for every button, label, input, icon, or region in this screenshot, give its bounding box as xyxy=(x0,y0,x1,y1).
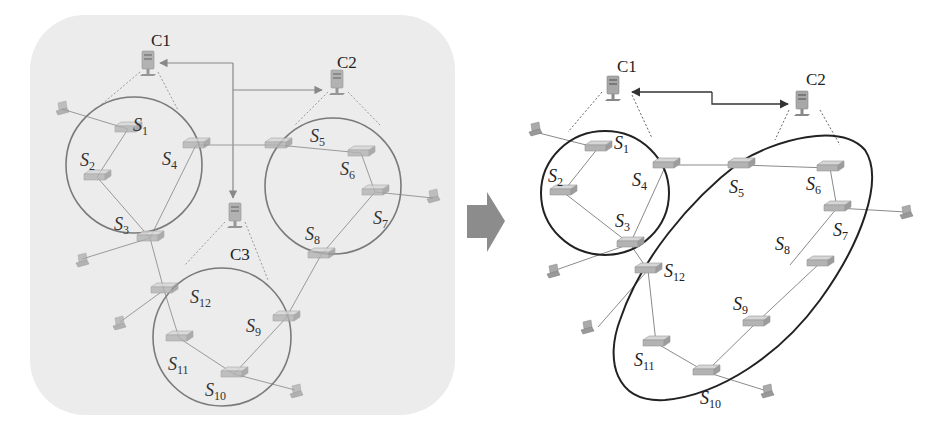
switch-s1-label: S1 xyxy=(614,133,629,156)
host-icon xyxy=(581,320,594,334)
switch-s4-icon xyxy=(183,138,210,148)
controller-c2-icon xyxy=(794,91,810,116)
switch-s2-icon xyxy=(550,185,577,195)
controller-sync-arrow-right xyxy=(712,92,788,104)
left-panel: C1 C2 C3 S1 S2 S3 S4 S5 S6 S7 S8 S9 S10 … xyxy=(30,15,455,415)
switch-s10-label: S10 xyxy=(700,388,721,411)
switch-s4-icon xyxy=(653,158,680,168)
controller-c1-icon xyxy=(605,76,621,101)
switch-s7-icon xyxy=(824,201,851,211)
switch-s8-label: S8 xyxy=(775,234,790,257)
right-panel: C1 C2 S1 S2 S3 S4 S5 S6 S7 S8 S9 S10 S11… xyxy=(529,57,913,411)
controller-c2-label: C2 xyxy=(337,53,357,72)
switch-s7-icon xyxy=(362,185,389,195)
host-icon xyxy=(529,122,542,136)
switch-s12-icon xyxy=(635,263,662,273)
switch-s10-icon xyxy=(693,365,720,375)
host-icon xyxy=(761,384,774,398)
right-arrow-icon xyxy=(467,192,505,252)
switch-s8-icon xyxy=(807,256,834,266)
switch-s2-label: S2 xyxy=(548,166,563,189)
switch-s5-icon xyxy=(728,158,755,168)
switch-s5-label: S5 xyxy=(729,177,744,200)
network-diagram: C1 C2 C3 S1 S2 S3 S4 S5 S6 S7 S8 S9 S10 … xyxy=(0,0,941,436)
controller-c1-label: C1 xyxy=(151,31,171,50)
switch-s5-icon xyxy=(265,138,292,148)
controller-c3-label: C3 xyxy=(230,245,250,264)
switch-s3-icon xyxy=(617,237,644,247)
switch-s11-label: S11 xyxy=(634,350,655,373)
switch-s6-icon xyxy=(348,146,375,156)
left-panel-background xyxy=(30,15,455,415)
switch-s11-icon xyxy=(166,331,193,341)
switch-s1-icon xyxy=(585,141,612,151)
switch-s12-label: S12 xyxy=(664,261,685,284)
switch-s7-label: S7 xyxy=(833,220,848,243)
switch-s9-label: S9 xyxy=(733,294,748,317)
host-icon xyxy=(547,264,560,278)
switch-s6-label: S6 xyxy=(806,174,821,197)
data-links-right xyxy=(535,132,906,391)
switch-s4-label: S4 xyxy=(632,170,647,193)
switch-s10-icon xyxy=(221,367,248,377)
switch-s8-icon xyxy=(308,248,335,258)
controller-c2-label: C2 xyxy=(806,70,826,89)
switch-s12-icon xyxy=(151,283,178,293)
switch-s6-icon xyxy=(817,161,844,171)
switch-s3-icon xyxy=(137,231,164,241)
controller-c1-label: C1 xyxy=(617,57,637,76)
switch-s3-label: S3 xyxy=(615,211,630,234)
switch-s11-icon xyxy=(643,336,670,346)
switch-s9-icon xyxy=(273,311,300,321)
switch-s9-icon xyxy=(743,316,770,326)
